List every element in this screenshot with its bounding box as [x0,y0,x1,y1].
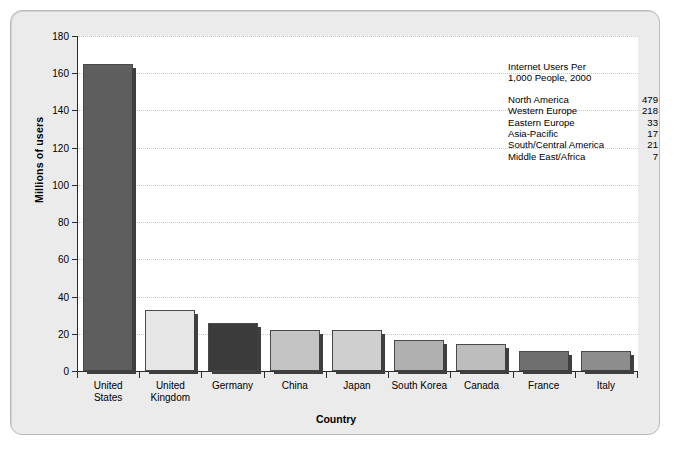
x-axis-tick [575,371,576,378]
x-axis-tick [388,371,389,378]
annotation-row-value: 33 [636,117,658,128]
x-axis-tick [77,371,78,378]
x-axis-tick [201,371,202,378]
bar [394,340,444,371]
x-axis-category-label: France [513,380,575,392]
bar-shadow-bottom [398,370,447,374]
annotation-title-line: Internet Users Per [508,61,658,72]
annotation-row: South/Central America21 [508,139,658,150]
x-axis-category-label: Japan [326,380,388,392]
bar [332,330,382,371]
bar-shadow-right [381,334,385,370]
bar [145,310,195,371]
bar [270,330,320,371]
bar-slot [394,36,444,371]
bar-shadow-bottom [274,370,323,374]
y-axis-tick-label: 100 [29,179,69,190]
x-axis-title: Country [11,413,661,425]
bar-slot [145,36,195,371]
bar-shadow-bottom [336,370,385,374]
annotation-row-value: 479 [636,94,658,105]
y-axis-tick-label: 180 [29,31,69,42]
x-axis-tick [450,371,451,378]
annotation-rows: North America479Western Europe218Eastern… [508,94,658,162]
x-axis-tick [264,371,265,378]
annotation-row: North America479 [508,94,658,105]
annotation-row-value: 21 [636,139,658,150]
x-axis-category-label: UnitedStates [77,380,139,403]
annotation-title-line: 1,000 People, 2000 [508,72,658,83]
bar-slot [270,36,320,371]
y-axis-tick-label: 40 [29,291,69,302]
bar-shadow-right [568,355,572,370]
bar-slot [332,36,382,371]
y-axis-tick-label: 80 [29,217,69,228]
chart-panel: Millions of users 0204060801001201401601… [10,10,660,435]
annotation-row: Middle East/Africa7 [508,151,658,162]
bar-shadow-bottom [212,370,261,374]
y-axis-tick-label: 120 [29,142,69,153]
annotation-row-value: 218 [636,105,658,116]
y-axis-tick-label: 0 [29,366,69,377]
annotation-row-label: North America [508,94,569,105]
bar-shadow-right [194,314,198,370]
bar-slot [208,36,258,371]
bar-slot [456,36,506,371]
annotation-row: Asia-Pacific17 [508,128,658,139]
x-axis-category-label: Italy [575,380,637,392]
bar-shadow-right [257,327,261,370]
annotation-row: Eastern Europe33 [508,117,658,128]
annotation-title: Internet Users Per1,000 People, 2000 [508,61,658,84]
x-axis-tick [637,371,638,378]
annotation-box: Internet Users Per1,000 People, 2000 Nor… [508,61,658,162]
y-axis-tick-label: 160 [29,68,69,79]
bar-shadow-right [630,355,634,370]
x-axis-category-label: UnitedKingdom [139,380,201,403]
bar [456,344,506,371]
x-axis-category-label: Germany [201,380,263,392]
bar-shadow-right [505,348,509,370]
bar [83,64,133,371]
bar-shadow-right [319,334,323,370]
annotation-row-value: 17 [636,128,658,139]
annotation-row-value: 7 [636,151,658,162]
annotation-row: Western Europe218 [508,105,658,116]
bar-shadow-right [443,344,447,370]
bar-shadow-right [132,68,136,370]
x-axis-tick [139,371,140,378]
x-axis-tick [326,371,327,378]
bar-slot [83,36,133,371]
y-axis-tick-label: 140 [29,105,69,116]
bar-shadow-bottom [87,370,136,374]
bar-shadow-bottom [585,370,634,374]
annotation-row-label: South/Central America [508,139,604,150]
annotation-row-label: Eastern Europe [508,117,575,128]
bar-shadow-bottom [523,370,572,374]
x-axis-category-label: China [264,380,326,392]
bar-shadow-bottom [460,370,509,374]
x-axis-tick [513,371,514,378]
x-axis-category-label: South Korea [388,380,450,392]
x-axis-category-label: Canada [450,380,512,392]
bar [581,351,631,371]
chart-figure: Millions of users 0204060801001201401601… [0,0,676,449]
annotation-row-label: Asia-Pacific [508,128,558,139]
annotation-row-label: Middle East/Africa [508,151,585,162]
y-axis-tick-label: 20 [29,328,69,339]
bar-shadow-bottom [149,370,198,374]
annotation-row-label: Western Europe [508,105,577,116]
bar [519,351,569,371]
y-axis-tick-label: 60 [29,254,69,265]
bar [208,323,258,371]
